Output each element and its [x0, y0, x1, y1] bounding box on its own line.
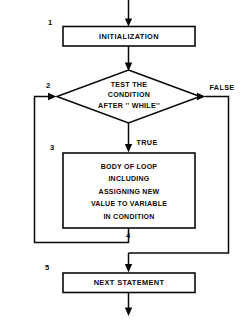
connector-join-to-next-statement: [125, 253, 132, 273]
entry-arrow: [125, 0, 132, 27]
node-next-statement[interactable]: NEXT STATEMENT: [63, 273, 195, 293]
next-statement-label: NEXT STATEMENT: [94, 278, 165, 287]
step-number-3: 3: [50, 143, 54, 152]
flowchart-canvas: INITIALIZATION 1 TEST THE CONDITION AFTE…: [0, 0, 249, 326]
condition-line-1: TEST THE: [111, 81, 148, 89]
condition-line-3: AFTER '' WHILE'': [98, 102, 160, 110]
exit-arrow: [125, 293, 132, 317]
body-line-3: ASSIGNING NEW: [99, 188, 160, 195]
step-number-5: 5: [45, 263, 50, 272]
true-branch-label: TRUE: [136, 138, 157, 147]
body-line-5: IN CONDITION: [103, 213, 154, 220]
node-body-of-loop[interactable]: BODY OF LOOP INCLUDING ASSIGNING NEW VAL…: [63, 153, 195, 228]
body-line-2: INCLUDING: [108, 175, 149, 182]
body-line-1: BODY OF LOOP: [101, 163, 158, 170]
step-number-2: 2: [46, 81, 50, 90]
initialization-label: INITIALIZATION: [99, 32, 159, 41]
node-condition-decision[interactable]: TEST THE CONDITION AFTER '' WHILE'': [57, 70, 200, 123]
condition-line-2: CONDITION: [108, 91, 151, 99]
flowchart-diagram: INITIALIZATION 1 TEST THE CONDITION AFTE…: [0, 0, 249, 326]
step-number-4: 4: [126, 231, 131, 240]
node-initialization[interactable]: INITIALIZATION: [63, 27, 195, 47]
true-branch-connector: [125, 123, 132, 153]
false-branch-label: FALSE: [209, 83, 234, 92]
body-line-4: VALUE TO VARIABLE: [91, 200, 167, 207]
connector-initialization-to-condition: [125, 46, 132, 71]
step-number-1: 1: [48, 18, 53, 27]
